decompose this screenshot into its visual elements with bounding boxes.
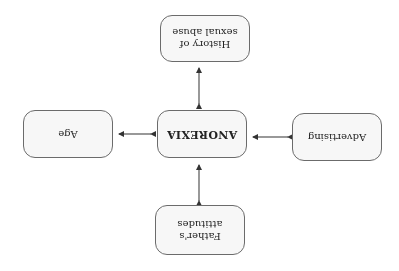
node-label-line1: History of (172, 39, 237, 51)
node-label: ANOREXIA (167, 128, 237, 140)
node-label: Advertising (308, 131, 366, 143)
node-label: Age (58, 128, 78, 140)
node-history-of-sexual-abuse: History of sexual abuse (160, 15, 250, 62)
diagram-canvas: Father's attitudes Advertising ANOREXIA … (0, 0, 399, 271)
node-label-line1: Father's (177, 230, 222, 242)
node-age: Age (23, 110, 113, 158)
node-advertising: Advertising (292, 113, 382, 161)
node-label-line2: attitudes (177, 218, 222, 230)
node-label-line2: sexual abuse (172, 27, 237, 39)
node-fathers-attitudes: Father's attitudes (155, 205, 245, 255)
node-anorexia: ANOREXIA (157, 110, 247, 158)
